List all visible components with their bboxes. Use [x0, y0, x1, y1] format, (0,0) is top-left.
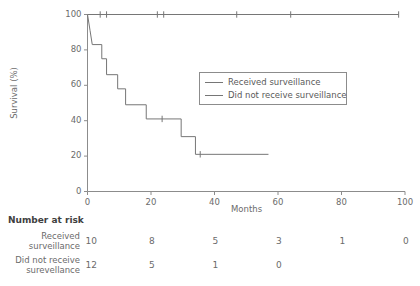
y-tick-label: 0 — [52, 186, 82, 196]
chart-legend: Received surveillance Did not receive su… — [199, 72, 347, 105]
y-tick-label: 100 — [52, 9, 82, 19]
legend-item-not-received: Did not receive surveillance — [205, 89, 341, 102]
risk-row-label-received: Received surveillance — [0, 231, 80, 251]
legend-line-icon — [205, 82, 223, 83]
y-tick-label: 60 — [52, 79, 82, 89]
risk-row-label-line1: Did not receive — [15, 255, 80, 265]
risk-value: 0 — [276, 260, 282, 270]
risk-value: 5 — [149, 260, 155, 270]
number-at-risk-table: Number at risk Received surveillance Did… — [0, 215, 420, 286]
y-tick-label: 80 — [52, 44, 82, 54]
legend-line-icon — [205, 95, 223, 96]
risk-value: 5 — [213, 236, 219, 246]
risk-value: 1 — [213, 260, 219, 270]
risk-value: 0 — [403, 236, 409, 246]
risk-row-label-line1: Received — [41, 231, 80, 241]
survival-chart-figure: Survival (%) Months Received surveillanc… — [0, 0, 420, 286]
risk-value: 3 — [276, 236, 282, 246]
x-tick-label: 40 — [201, 197, 229, 207]
x-tick-label: 20 — [137, 197, 165, 207]
x-tick-label: 60 — [264, 197, 292, 207]
x-tick-label: 100 — [391, 197, 419, 207]
risk-row-label-line2: surveillance — [29, 241, 80, 251]
risk-value: 12 — [86, 260, 97, 270]
risk-row-label-line2: surevellance — [26, 265, 80, 275]
legend-label: Did not receive surveillance — [228, 89, 347, 102]
x-tick-label: 0 — [74, 197, 102, 207]
x-axis-title: Months — [231, 204, 262, 214]
risk-row-label-not-received: Did not receive surevellance — [0, 255, 80, 275]
y-tick-label: 20 — [52, 150, 82, 160]
risk-value: 8 — [149, 236, 155, 246]
risk-value: 1 — [340, 236, 346, 246]
risk-table-title: Number at risk — [8, 215, 84, 225]
y-tick-label: 40 — [52, 115, 82, 125]
legend-item-received: Received surveillance — [205, 76, 341, 89]
risk-value: 10 — [86, 236, 97, 246]
legend-label: Received surveillance — [228, 76, 321, 89]
x-tick-label: 80 — [328, 197, 356, 207]
y-axis-title: Survival (%) — [9, 63, 19, 123]
